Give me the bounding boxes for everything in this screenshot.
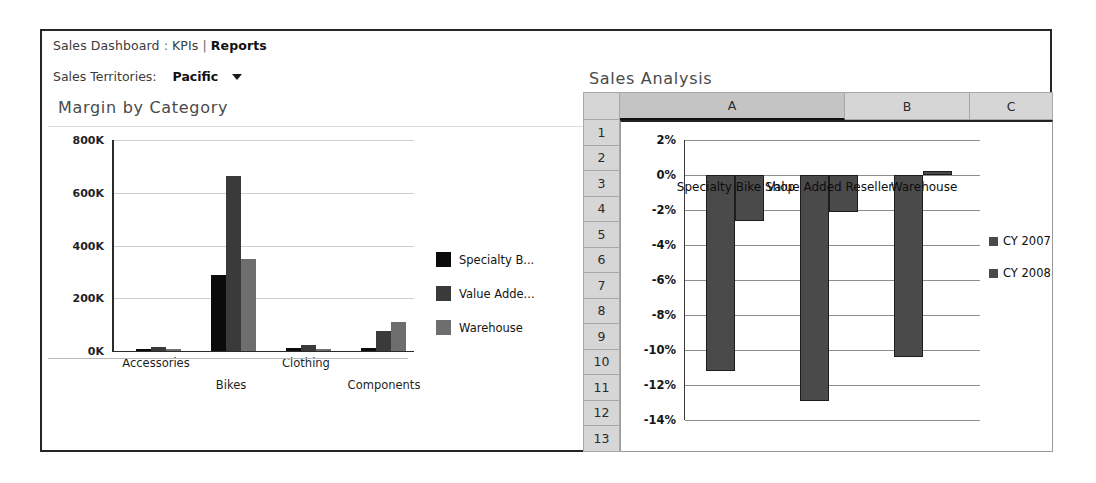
spreadsheet-column-headers: A B C [583,92,1053,120]
chevron-down-icon[interactable] [232,74,242,80]
right-chart-y-axis: 2% 0% -2% -4% -6% -8% -10% -12% -14% [621,140,679,425]
legend-item[interactable]: Value Adde... [436,286,566,301]
bar-warehouse[interactable] [166,349,181,351]
y-tick-label: 0% [656,168,676,182]
legend-swatch-icon [436,286,451,301]
legend-item[interactable]: Warehouse [436,320,566,335]
bar-value-added[interactable] [226,176,241,352]
legend-label: Specialty B... [459,253,534,267]
x-tick-label-components: Components [348,378,421,392]
row-header[interactable]: 11 [583,375,620,401]
bar-warehouse[interactable] [316,349,331,351]
legend-item[interactable]: CY 2008 [989,266,1051,280]
y-tick-label: -14% [644,413,676,427]
row-header[interactable]: 5 [583,222,620,248]
legend-label: Warehouse [459,321,523,335]
panel-divider [48,126,593,127]
y-tick-label: -6% [652,273,676,287]
legend-item[interactable]: CY 2007 [989,234,1051,248]
x-tick-label-value-added-reseller: Value Added Reseller [765,180,895,194]
margin-by-category-chart: 800K 600K 400K 200K 0K [48,134,593,418]
row-header[interactable]: 3 [583,171,620,197]
left-chart-plot-area [112,140,414,352]
row-header[interactable]: 12 [583,401,620,427]
select-all-corner[interactable] [583,92,620,120]
bar-specialty[interactable] [136,349,151,351]
y-tick-label: 800K [73,134,105,147]
x-tick-label-warehouse: Warehouse [891,180,958,194]
bar-specialty[interactable] [286,348,301,351]
legend-label: Value Adde... [459,287,535,301]
sales-analysis-chart: 2% 0% -2% -4% -6% -8% -10% -12% -14% [621,122,1054,454]
breadcrumb-item-kpis[interactable]: KPIs [172,38,198,53]
legend-label: CY 2007 [1003,234,1051,248]
legend-swatch-icon [989,237,998,246]
row-header[interactable]: 4 [583,197,620,223]
spreadsheet-grid-area[interactable]: 2% 0% -2% -4% -6% -8% -10% -12% -14% [620,120,1053,452]
row-header[interactable]: 8 [583,299,620,325]
row-header[interactable]: 1 [583,120,620,146]
column-header-a[interactable]: A [620,92,845,120]
row-header[interactable]: 13 [583,426,620,452]
sales-analysis-spreadsheet: A B C 1 2 3 4 5 6 7 8 9 10 11 12 13 2% 0… [583,92,1053,452]
sales-territories-label: Sales Territories: [53,69,157,84]
row-header[interactable]: 10 [583,350,620,376]
breadcrumb: Sales Dashboard : KPIs | Reports [53,38,267,53]
screenshot-root: Sales Dashboard : KPIs | Reports Sales T… [0,0,1096,483]
legend-swatch-icon [436,252,451,267]
bar-warehouse[interactable] [391,322,406,351]
bar-group-accessories [136,347,181,352]
y-tick-label: 2% [656,133,676,147]
margin-by-category-panel: Margin by Category 800K 600K 400K 200K 0… [48,98,593,418]
column-header-c[interactable]: C [970,92,1053,120]
row-header[interactable]: 2 [583,146,620,172]
breadcrumb-separator-2: | [198,38,210,53]
y-tick-label: -8% [652,308,676,322]
y-tick-label: -12% [644,378,676,392]
y-tick-label: -4% [652,238,676,252]
row-header[interactable]: 6 [583,248,620,274]
bar-value-added[interactable] [151,347,166,352]
bar-value-added[interactable] [376,331,391,351]
bar-warehouse[interactable] [241,259,256,351]
left-chart-legend: Specialty B... Value Adde... Warehouse [436,252,566,335]
bar-group-bikes [211,176,256,352]
legend-label: CY 2008 [1003,266,1051,280]
left-chart-bars [114,140,414,351]
row-header[interactable]: 9 [583,324,620,350]
y-tick-label: -2% [652,203,676,217]
left-chart-baseline [48,358,408,359]
left-chart-y-axis: 800K 600K 400K 200K 0K [48,134,108,364]
y-tick-label: 600K [73,186,105,199]
bar-group-clothing [286,345,331,351]
sales-territories-filter[interactable]: Sales Territories: Pacific [53,69,242,84]
breadcrumb-item-reports[interactable]: Reports [211,38,267,53]
legend-item[interactable]: Specialty B... [436,252,566,267]
right-chart-legend: CY 2007 CY 2008 [989,234,1051,280]
breadcrumb-separator-1: : [160,38,172,53]
right-chart-x-axis: Specialty Bike Shop Value Added Reseller… [684,140,979,210]
sales-analysis-title: Sales Analysis [589,69,712,88]
margin-by-category-title: Margin by Category [48,98,593,117]
y-tick-label: 0K [88,345,104,358]
y-tick-label: 400K [73,239,105,252]
gridline [685,420,980,421]
bar-specialty[interactable] [211,275,226,352]
bar-specialty[interactable] [361,348,376,351]
column-header-b[interactable]: B [845,92,970,120]
bar-value-added[interactable] [301,345,316,351]
legend-swatch-icon [989,269,998,278]
legend-swatch-icon [436,320,451,335]
breadcrumb-item-sales-dashboard[interactable]: Sales Dashboard [53,38,160,53]
y-tick-label: 200K [73,292,105,305]
spreadsheet-row-headers: 1 2 3 4 5 6 7 8 9 10 11 12 13 [583,120,620,452]
left-chart-x-axis: Accessories Bikes Clothing Components [112,356,442,402]
sales-territories-value[interactable]: Pacific [173,69,219,84]
x-tick-label-bikes: Bikes [216,378,246,392]
row-header[interactable]: 7 [583,273,620,299]
y-tick-label: -10% [644,343,676,357]
bar-group-components [361,322,406,351]
